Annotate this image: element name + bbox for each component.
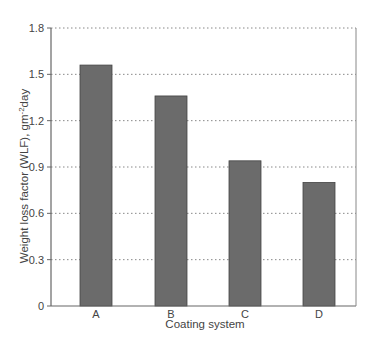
y-tick-label: 1.2 [29,115,44,127]
bar-d [303,182,335,306]
bar-b [155,96,187,306]
y-tick-label: 0.6 [29,207,44,219]
y-tick-label: 1.8 [29,22,44,34]
x-axis-title: Coating system [165,318,244,330]
y-tick-label: 0.9 [29,161,44,173]
y-tick-label: 0 [38,300,44,312]
x-tick-label: D [315,308,323,320]
x-tick-label: A [92,308,100,320]
bar-a [80,65,112,306]
bar-chart: 00.30.60.91.21.51.8 ABCD Coating system … [0,0,375,346]
y-axis-title: Weight loss factor (WLF), gm-2day [17,89,30,264]
bars [80,65,335,306]
y-tick-labels: 00.30.60.91.21.51.8 [29,22,51,312]
y-tick-label: 1.5 [29,68,44,80]
y-tick-label: 0.3 [29,254,44,266]
bar-c [229,161,261,306]
